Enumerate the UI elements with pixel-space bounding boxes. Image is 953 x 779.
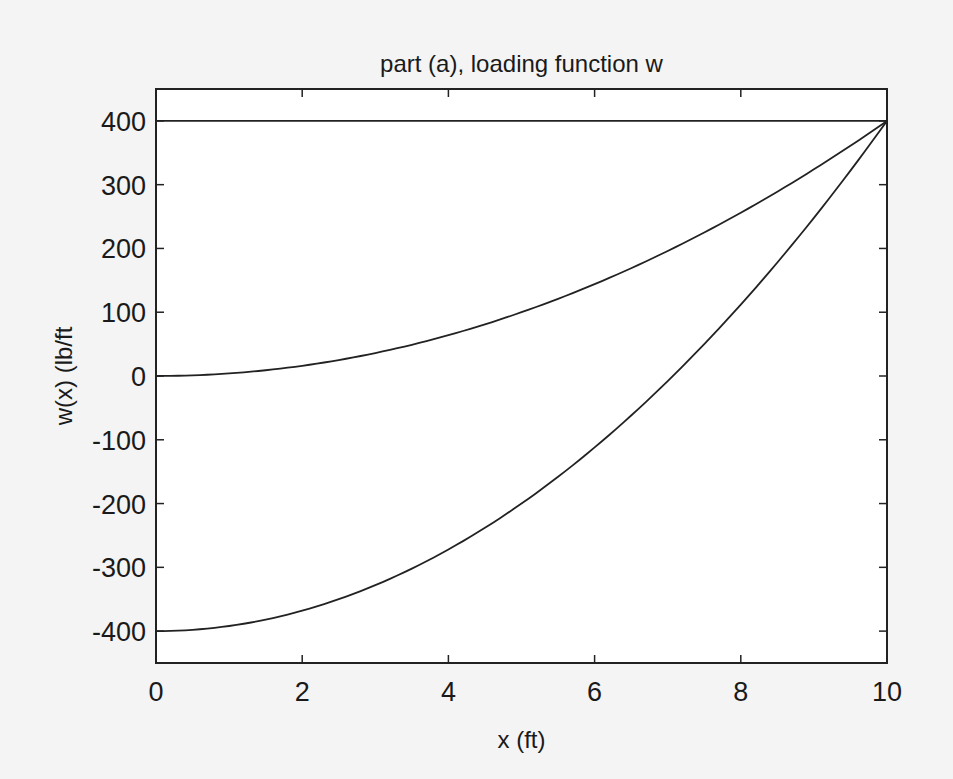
line-chart: 0246810 4003002001000-100-200-300-400 pa… bbox=[0, 0, 953, 779]
y-tick-label: -200 bbox=[92, 490, 146, 520]
x-tick-label: 4 bbox=[441, 677, 456, 707]
plot-area bbox=[156, 89, 887, 663]
x-tick-label: 8 bbox=[733, 677, 748, 707]
x-tick-label: 0 bbox=[148, 677, 163, 707]
x-tick-label: 2 bbox=[295, 677, 310, 707]
x-tick-label: 10 bbox=[872, 677, 902, 707]
chart-title: part (a), loading function w bbox=[380, 50, 663, 77]
y-tick-label: 200 bbox=[101, 234, 146, 264]
y-tick-label: 100 bbox=[101, 298, 146, 328]
y-tick-label: -400 bbox=[92, 617, 146, 647]
y-tick-label: 400 bbox=[101, 107, 146, 137]
y-tick-label: -300 bbox=[92, 553, 146, 583]
y-axis-label: w(x) (lb/ft bbox=[50, 326, 77, 426]
x-axis-label: x (ft) bbox=[498, 726, 546, 753]
y-tick-label: 0 bbox=[131, 362, 146, 392]
y-tick-label: -100 bbox=[92, 426, 146, 456]
x-tick-label: 6 bbox=[587, 677, 602, 707]
y-tick-label: 300 bbox=[101, 171, 146, 201]
chart-figure: 0246810 4003002001000-100-200-300-400 pa… bbox=[0, 0, 953, 779]
